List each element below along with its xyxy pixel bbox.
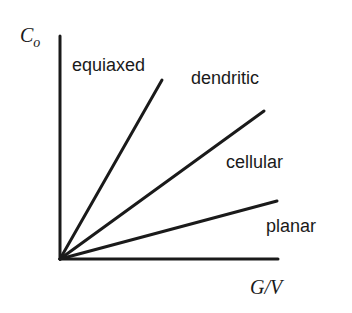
equiaxed-dendritic-boundary: [60, 80, 162, 259]
cellular-planar-boundary: [60, 201, 277, 259]
dendritic-cellular-boundary: [60, 111, 264, 259]
x-axis-label: G/V: [250, 276, 285, 298]
region-label-cellular: cellular: [226, 152, 283, 172]
region-label-dendritic: dendritic: [191, 68, 259, 88]
region-label-planar: planar: [266, 216, 316, 236]
diagram-canvas: Co G/V equiaxed dendritic cellular plana…: [0, 0, 352, 313]
diagram-svg: Co G/V equiaxed dendritic cellular plana…: [0, 0, 352, 313]
y-axis-label: Co: [20, 24, 40, 50]
region-label-equiaxed: equiaxed: [72, 55, 145, 75]
